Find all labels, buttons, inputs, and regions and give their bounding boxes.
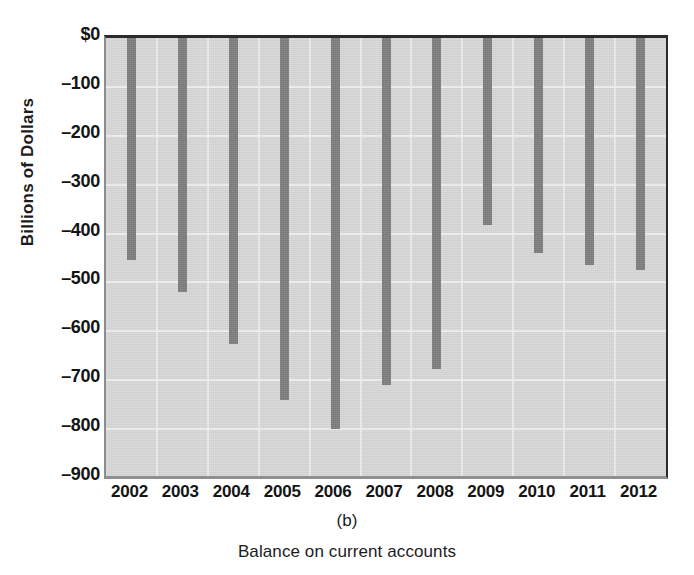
y-tick-label: $0 bbox=[4, 24, 100, 45]
figure-caption: Balance on current accounts bbox=[0, 542, 694, 562]
y-tick-label: –700 bbox=[4, 366, 100, 387]
y-tick-label: –300 bbox=[4, 171, 100, 192]
bar-2005 bbox=[280, 38, 289, 400]
gridline-vertical bbox=[207, 38, 209, 476]
bar-2009 bbox=[483, 38, 492, 225]
gridline-vertical bbox=[563, 38, 565, 476]
x-axis-tick-labels: 2002200320042005200620072008200920102011… bbox=[104, 482, 668, 508]
y-axis-tick-labels: $0–100–200–300–400–500–600–700–800–900 bbox=[0, 35, 100, 479]
gridline-vertical bbox=[512, 38, 514, 476]
bar-2006 bbox=[331, 38, 340, 429]
gridline-vertical bbox=[410, 38, 412, 476]
x-tick-label-2012: 2012 bbox=[612, 482, 666, 502]
x-tick-label-2005: 2005 bbox=[255, 482, 309, 502]
bar-2003 bbox=[178, 38, 187, 292]
bar-2007 bbox=[382, 38, 391, 385]
x-tick-label-2006: 2006 bbox=[306, 482, 360, 502]
y-tick-label: –400 bbox=[4, 220, 100, 241]
y-tick-label: –200 bbox=[4, 122, 100, 143]
gridline-vertical bbox=[258, 38, 260, 476]
x-tick-label-2009: 2009 bbox=[459, 482, 513, 502]
bar-2008 bbox=[432, 38, 441, 369]
y-tick-label: –100 bbox=[4, 73, 100, 94]
chart-figure: Billions of Dollars $0–100–200–300–400–5… bbox=[0, 0, 694, 575]
bar-2011 bbox=[585, 38, 594, 265]
bar-2004 bbox=[229, 38, 238, 344]
x-tick-label-2007: 2007 bbox=[357, 482, 411, 502]
y-tick-label: –500 bbox=[4, 268, 100, 289]
bar-2012 bbox=[636, 38, 645, 270]
y-tick-label: –800 bbox=[4, 415, 100, 436]
gridline-vertical bbox=[461, 38, 463, 476]
x-tick-label-2010: 2010 bbox=[510, 482, 564, 502]
x-tick-label-2002: 2002 bbox=[102, 482, 156, 502]
gridline-horizontal bbox=[106, 477, 666, 479]
gridline-vertical bbox=[360, 38, 362, 476]
gridline-vertical bbox=[309, 38, 311, 476]
y-tick-label: –900 bbox=[4, 464, 100, 485]
bar-2002 bbox=[127, 38, 136, 260]
plot-area bbox=[104, 35, 668, 479]
gridline-vertical bbox=[156, 38, 158, 476]
bar-2010 bbox=[534, 38, 543, 253]
x-tick-label-2004: 2004 bbox=[204, 482, 258, 502]
gridline-horizontal bbox=[106, 428, 666, 430]
x-tick-label-2008: 2008 bbox=[408, 482, 462, 502]
gridline-vertical bbox=[614, 38, 616, 476]
panel-label: (b) bbox=[0, 511, 694, 531]
y-tick-label: –600 bbox=[4, 317, 100, 338]
x-tick-label-2003: 2003 bbox=[153, 482, 207, 502]
x-tick-label-2011: 2011 bbox=[561, 482, 615, 502]
